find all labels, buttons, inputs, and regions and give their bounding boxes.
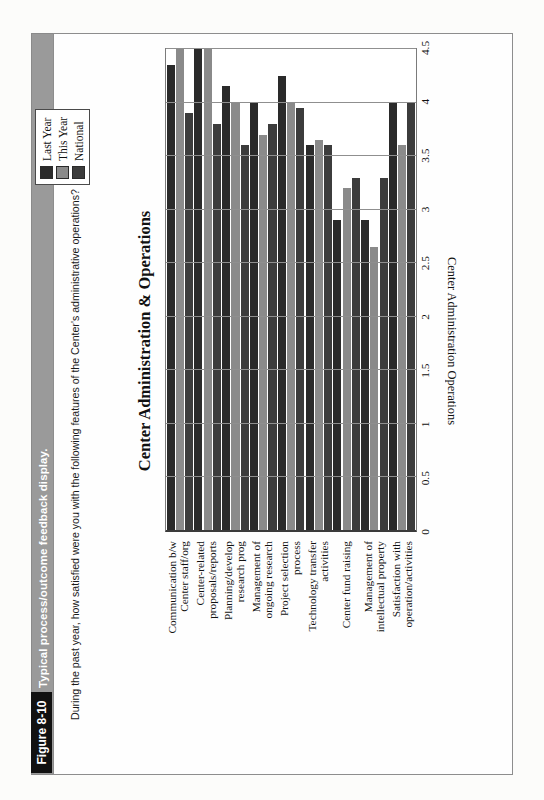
bar-group xyxy=(249,49,277,531)
legend-item: Last Year xyxy=(40,117,53,179)
bar xyxy=(324,145,332,531)
value-tick-label: 1.5 xyxy=(419,364,431,378)
bar xyxy=(167,65,175,531)
value-tick-label: 3.5 xyxy=(419,149,431,163)
bar-rows xyxy=(166,49,416,531)
figure-page: Typical process/outcome feedback display… xyxy=(0,0,544,800)
chart-title: Center Administration & Operations xyxy=(135,42,155,640)
bar xyxy=(287,103,295,531)
legend-item: This Year xyxy=(56,117,69,179)
category-axis-title: Center Administration Operations xyxy=(444,42,459,640)
legend-label: Last Year xyxy=(41,118,53,161)
gridline xyxy=(166,476,416,477)
category-label: Management ofongoing research xyxy=(249,536,277,640)
value-tick-label: 4 xyxy=(419,99,431,105)
bar xyxy=(361,220,369,531)
value-tick-label: 1 xyxy=(419,422,431,428)
bar xyxy=(250,103,258,531)
category-label: Center fund raising xyxy=(333,536,361,640)
category-label: Communication b/wCenter staff/org xyxy=(165,536,193,640)
bar xyxy=(380,178,388,531)
bar xyxy=(315,140,323,531)
bar xyxy=(176,49,184,531)
bar xyxy=(241,145,249,531)
gridline xyxy=(166,262,416,263)
bar xyxy=(333,220,341,531)
bar-group xyxy=(166,49,194,531)
legend-label: This Year xyxy=(57,117,69,161)
bar xyxy=(278,76,286,531)
gridline xyxy=(166,209,416,210)
bar xyxy=(213,124,221,531)
bar-group xyxy=(360,49,388,531)
category-axis-labels: Communication b/wCenter staff/orgCenter-… xyxy=(165,536,417,640)
gridline xyxy=(166,369,416,370)
legend-swatch-icon xyxy=(72,166,85,179)
bar xyxy=(352,178,360,531)
figure-number-tab: Figure 8-10 xyxy=(31,692,52,773)
value-tick-label: 0 xyxy=(419,529,431,535)
value-tick-label: 2.5 xyxy=(419,256,431,270)
gridline xyxy=(166,530,416,531)
gridline xyxy=(166,316,416,317)
legend-label: National xyxy=(73,121,85,161)
category-label: Satisfaction withoperation/activities xyxy=(389,536,417,640)
bar xyxy=(259,135,267,531)
chart-legend: Last YearThis YearNational xyxy=(35,109,90,185)
category-label: Planning/developresearch prog xyxy=(221,536,249,640)
bar xyxy=(268,124,276,531)
bar xyxy=(343,188,351,531)
value-tick-label: 0.5 xyxy=(419,471,431,485)
bar xyxy=(370,247,378,531)
category-label: Management ofintellectual property xyxy=(361,536,389,640)
bar-group xyxy=(277,49,305,531)
bar xyxy=(185,113,193,531)
bar-chart: Center Administration & Operations Last … xyxy=(131,42,461,640)
bar xyxy=(306,145,314,531)
legend-item: National xyxy=(72,117,85,179)
category-label: Project selectionprocess xyxy=(277,536,305,640)
bar xyxy=(231,103,239,531)
bar xyxy=(407,103,415,531)
bar-group xyxy=(388,49,416,531)
bar-group xyxy=(222,49,250,531)
plot-area xyxy=(165,48,417,532)
value-axis-labels: 00.511.522.533.544.5 xyxy=(419,48,435,532)
bar xyxy=(389,103,397,531)
bar xyxy=(222,87,230,532)
value-tick-label: 3 xyxy=(419,207,431,213)
bar xyxy=(194,49,202,531)
bar xyxy=(296,108,304,531)
bar-group xyxy=(305,49,333,531)
chart-rotation-wrapper: Center Administration & Operations Last … xyxy=(131,42,461,640)
legend-swatch-icon xyxy=(40,166,53,179)
gridline xyxy=(166,155,416,156)
gridline xyxy=(166,423,416,424)
value-tick-label: 2 xyxy=(419,314,431,320)
gridline xyxy=(166,102,416,103)
category-label: Center-relatedproposals/reports xyxy=(193,536,221,640)
bar-group xyxy=(194,49,222,531)
legend-swatch-icon xyxy=(56,166,69,179)
bar xyxy=(398,145,406,531)
bar-group xyxy=(333,49,361,531)
gridline xyxy=(166,48,416,49)
bar xyxy=(204,49,212,531)
category-label: Technology transferactivities xyxy=(305,536,333,640)
value-tick-label: 4.5 xyxy=(419,41,431,55)
figure-number-label: Figure 8-10 xyxy=(31,692,52,773)
